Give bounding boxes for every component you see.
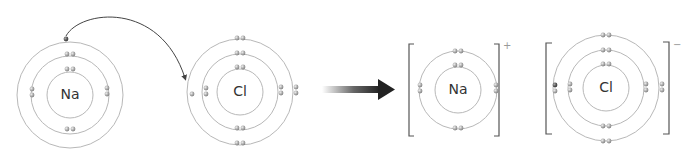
- sodium-ion: + Na: [409, 40, 511, 136]
- cl-ion-label: Cl: [599, 79, 613, 95]
- ionic-bond-diagram: Na Cl: [0, 0, 694, 155]
- electron-transfer-arrow: [66, 17, 185, 78]
- na-atom-label: Na: [60, 86, 79, 102]
- cl-ion-left-bracket: [546, 43, 552, 134]
- cl-atom-label: Cl: [233, 83, 247, 99]
- na-ion-charge: +: [503, 40, 511, 51]
- na-ion-left-bracket: [409, 44, 414, 136]
- cl-ion-charge: −: [673, 39, 681, 50]
- transferring-electron: [64, 37, 69, 42]
- sodium-atom: Na: [17, 37, 123, 148]
- na-ion-label: Na: [448, 81, 467, 97]
- reaction-arrow: [322, 79, 395, 100]
- cl-ion-right-bracket: [663, 42, 669, 134]
- chloride-ion: − Cl: [546, 33, 681, 144]
- received-electron: [553, 83, 558, 88]
- chlorine-atom: Cl: [187, 36, 298, 146]
